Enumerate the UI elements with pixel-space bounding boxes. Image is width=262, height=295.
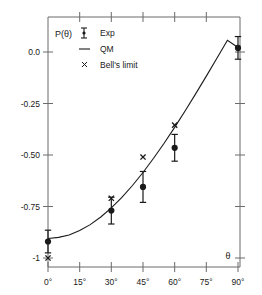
x-tick-label-2: 30° <box>105 277 118 287</box>
y-tick-label-4: -1 <box>32 253 40 263</box>
exp-marker-dot <box>108 208 114 214</box>
x-tick-label-6: 90° <box>232 277 245 287</box>
exp-marker-dot <box>45 238 51 244</box>
bell-correlation-figure: 0.0 -0.25 -0.50 -0.75 -1 0° 15° 30° 45° … <box>0 0 262 295</box>
legend-label-exp: Exp <box>100 28 115 38</box>
x-tick-label-0: 0° <box>44 277 52 287</box>
exp-marker-dot <box>235 45 241 51</box>
y-tick-label-3: -0.75 <box>21 202 41 212</box>
errorbar-icon-dot <box>82 31 85 34</box>
y-axis-title: P(θ) <box>55 29 72 39</box>
x-tick-label-3: 45° <box>137 277 150 287</box>
exp-marker-dot <box>172 145 178 151</box>
y-tick-label-0: 0.0 <box>28 47 40 57</box>
chart-svg: 0.0 -0.25 -0.50 -0.75 -1 0° 15° 30° 45° … <box>0 0 262 295</box>
figure-background <box>0 0 262 295</box>
x-tick-label-4: 60° <box>168 277 181 287</box>
y-tick-label-1: -0.25 <box>21 99 41 109</box>
x-axis-title: θ <box>225 251 230 261</box>
exp-marker-dot <box>140 184 146 190</box>
legend-label-bells-limit: Bell's limit <box>100 60 138 70</box>
x-tick-label-1: 15° <box>73 277 86 287</box>
legend-label-qm: QM <box>100 44 114 54</box>
x-tick-label-5: 75° <box>200 277 213 287</box>
y-tick-label-2: -0.50 <box>21 150 41 160</box>
